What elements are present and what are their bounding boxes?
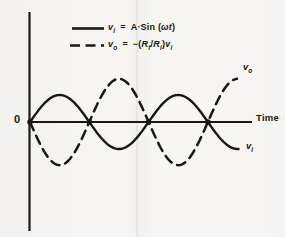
vi-curve-subscript: i — [251, 146, 253, 153]
ri-symbol: R — [153, 39, 160, 49]
omega-t-term: ωt — [161, 22, 172, 32]
waveform-figure: vi=A·Sin (ωt) vo=−(Rf/Ri)vi 0 Time vo vi — [0, 0, 285, 237]
vi-term-subscript: i — [170, 44, 172, 51]
time-axis-label: Time — [256, 113, 279, 123]
zero-crossing-dot — [27, 119, 32, 124]
vi-subscript: i — [113, 27, 115, 34]
equals-sign: = — [122, 39, 127, 49]
legend-equation-vi: vi=A·Sin (ωt) — [108, 23, 175, 32]
curve-label-vo: vo — [243, 62, 252, 72]
equation-rhs-close: ) — [172, 22, 175, 32]
zero-crossing-dot — [205, 119, 210, 124]
zero-crossing-dot — [87, 119, 92, 124]
legend-equation-vo: vo=−(Rf/Ri)vi — [108, 40, 172, 49]
waveform-svg — [0, 0, 285, 237]
equals-sign: = — [120, 22, 125, 32]
curve-label-vi: vi — [246, 141, 253, 151]
vo-subscript: o — [113, 44, 117, 51]
origin-zero-label: 0 — [14, 114, 20, 125]
vo-curve-subscript: o — [248, 67, 252, 74]
zero-crossing-dot — [146, 119, 151, 124]
equation-rhs-text: A·Sin ( — [131, 22, 161, 32]
minus-open-paren: −( — [133, 39, 142, 49]
